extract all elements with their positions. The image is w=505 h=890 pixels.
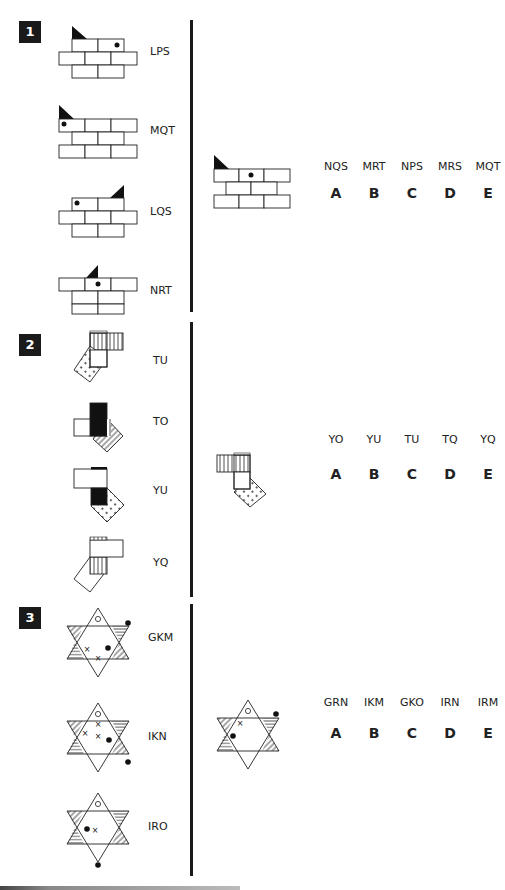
squares-figure-yq bbox=[60, 532, 140, 602]
option-code: NQS bbox=[317, 160, 355, 173]
figure-code-lqs: LQS bbox=[150, 205, 172, 218]
option-codes-q3: GRN IKM GKO IRN IRM bbox=[317, 696, 505, 709]
figure-code-tu: TU bbox=[153, 354, 168, 367]
option-code: MRS bbox=[431, 160, 469, 173]
top-cut-text-remnant bbox=[0, 0, 505, 4]
svg-text:×: × bbox=[237, 719, 244, 728]
figure-code-yu: YU bbox=[153, 484, 168, 497]
wall-figure-mqt bbox=[55, 102, 145, 162]
bottom-edge-bar bbox=[0, 886, 240, 890]
option-e[interactable]: E bbox=[469, 725, 505, 741]
option-codes-q1: NQS MRT NPS MRS MQT bbox=[317, 160, 505, 173]
option-codes-q2: YO YU TU TQ YQ bbox=[317, 433, 505, 446]
figure-code-nrt: NRT bbox=[150, 284, 172, 297]
figure-code-yq: YQ bbox=[153, 556, 168, 569]
option-code: YO bbox=[317, 433, 355, 446]
option-b[interactable]: B bbox=[355, 185, 393, 201]
svg-text:×: × bbox=[95, 732, 102, 741]
option-code: IRM bbox=[469, 696, 505, 709]
wall-figure-lqs bbox=[55, 182, 145, 242]
option-code: YQ bbox=[469, 433, 505, 446]
wall-figure-test bbox=[210, 152, 300, 212]
option-d[interactable]: D bbox=[431, 725, 469, 741]
star-figure-ikn: × × × bbox=[60, 700, 150, 790]
svg-text:×: × bbox=[92, 826, 99, 835]
option-code: GRN bbox=[317, 696, 355, 709]
squares-figure-test bbox=[210, 445, 280, 515]
option-d[interactable]: D bbox=[431, 466, 469, 482]
option-code: NPS bbox=[393, 160, 431, 173]
star-figure-gkm: × × bbox=[60, 605, 150, 695]
option-code: YU bbox=[355, 433, 393, 446]
question-number-2: 2 bbox=[19, 334, 41, 356]
option-letters-q1: A B C D E bbox=[317, 185, 505, 201]
option-d[interactable]: D bbox=[431, 185, 469, 201]
wall-figure-nrt bbox=[55, 262, 145, 314]
figure-code-gkm: GKM bbox=[148, 631, 173, 644]
squares-figure-tu bbox=[60, 325, 140, 405]
squares-figure-to bbox=[60, 395, 140, 465]
option-a[interactable]: A bbox=[317, 185, 355, 201]
option-c[interactable]: C bbox=[393, 466, 431, 482]
figure-code-lps: LPS bbox=[150, 45, 170, 58]
option-a[interactable]: A bbox=[317, 725, 355, 741]
question-number-3: 3 bbox=[19, 607, 41, 629]
option-b[interactable]: B bbox=[355, 466, 393, 482]
option-a[interactable]: A bbox=[317, 466, 355, 482]
question-number-1: 1 bbox=[19, 21, 41, 43]
svg-text:×: × bbox=[82, 729, 89, 738]
option-code: TU bbox=[393, 433, 431, 446]
option-letters-q3: A B C D E bbox=[317, 725, 505, 741]
option-code: MRT bbox=[355, 160, 393, 173]
question-2-divider bbox=[190, 322, 193, 597]
option-code: GKO bbox=[393, 696, 431, 709]
figure-code-iro: IRO bbox=[148, 820, 168, 833]
option-code: MQT bbox=[469, 160, 505, 173]
figure-code-to: TO bbox=[153, 415, 168, 428]
option-b[interactable]: B bbox=[355, 725, 393, 741]
option-e[interactable]: E bbox=[469, 466, 505, 482]
option-c[interactable]: C bbox=[393, 725, 431, 741]
figure-code-mqt: MQT bbox=[150, 124, 175, 137]
option-code: IKM bbox=[355, 696, 393, 709]
star-figure-iro: × bbox=[60, 790, 150, 880]
wall-figure-lps bbox=[55, 22, 145, 82]
option-letters-q2: A B C D E bbox=[317, 466, 505, 482]
figure-code-ikn: IKN bbox=[148, 730, 167, 743]
star-figure-test: × bbox=[210, 697, 300, 787]
option-code: IRN bbox=[431, 696, 469, 709]
svg-text:×: × bbox=[95, 654, 102, 663]
svg-text:×: × bbox=[95, 720, 102, 729]
question-3-divider bbox=[190, 604, 193, 876]
question-1-divider bbox=[190, 20, 193, 312]
svg-text:×: × bbox=[84, 645, 91, 654]
option-c[interactable]: C bbox=[393, 185, 431, 201]
squares-figure-yu bbox=[60, 462, 140, 532]
option-code: TQ bbox=[431, 433, 469, 446]
option-e[interactable]: E bbox=[469, 185, 505, 201]
